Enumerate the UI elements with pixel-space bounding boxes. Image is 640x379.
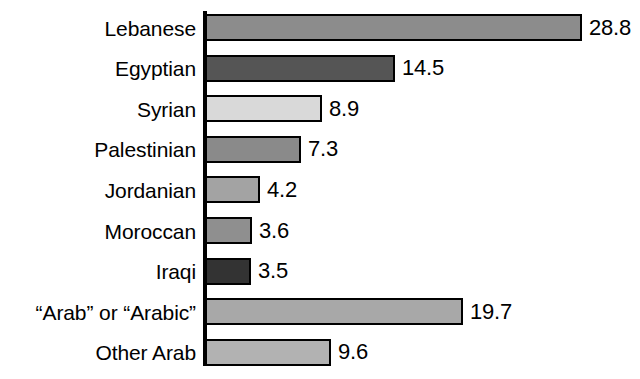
category-label: Other Arab — [95, 342, 196, 363]
bar-row: “Arab” or “Arabic”19.7 — [0, 298, 640, 325]
category-label: Iraqi — [156, 261, 196, 282]
category-label: “Arab” or “Arabic” — [36, 301, 196, 322]
bar-value-label: 14.5 — [402, 57, 444, 79]
bar-row: Jordanian4.2 — [0, 176, 640, 203]
bar-row: Iraqi3.5 — [0, 258, 640, 285]
plot-area: Lebanese28.8Egyptian14.5Syrian8.9Palesti… — [0, 0, 640, 379]
bar-value-label: 28.8 — [589, 17, 631, 39]
bar-row: Egyptian14.5 — [0, 55, 640, 82]
bar-value-label: 4.2 — [267, 179, 297, 201]
bar-row: Moroccan3.6 — [0, 217, 640, 244]
bar — [205, 14, 582, 41]
bar — [205, 176, 260, 203]
bar — [205, 95, 322, 122]
bar-value-label: 19.7 — [470, 301, 512, 323]
category-label: Syrian — [137, 98, 196, 119]
category-label: Jordanian — [105, 179, 196, 200]
bar — [205, 55, 395, 82]
bar — [205, 217, 252, 244]
category-label: Egyptian — [115, 58, 196, 79]
bar — [205, 258, 251, 285]
bar-row: Palestinian7.3 — [0, 136, 640, 163]
bar-value-label: 7.3 — [308, 138, 338, 160]
bar-rows: Lebanese28.8Egyptian14.5Syrian8.9Palesti… — [0, 0, 640, 379]
bar-chart: Lebanese28.8Egyptian14.5Syrian8.9Palesti… — [0, 0, 640, 379]
bar-row: Syrian8.9 — [0, 95, 640, 122]
bar-value-label: 3.6 — [259, 220, 289, 242]
bar — [205, 136, 301, 163]
bar-value-label: 3.5 — [258, 260, 288, 282]
category-label: Lebanese — [105, 17, 196, 38]
bar — [205, 298, 463, 325]
bar — [205, 339, 331, 366]
bar-row: Other Arab9.6 — [0, 339, 640, 366]
bar-value-label: 8.9 — [329, 98, 359, 120]
bar-row: Lebanese28.8 — [0, 14, 640, 41]
bar-value-label: 9.6 — [338, 341, 368, 363]
category-label: Palestinian — [94, 139, 196, 160]
category-label: Moroccan — [105, 220, 196, 241]
